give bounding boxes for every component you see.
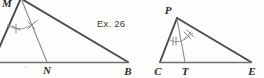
right-vertex-label-E: E [247,65,255,77]
left-vertex-label-B: B [123,65,131,77]
left-triangle-cevian [22,1,47,62]
geometry-figure-panel: M N B Ex. 26 [0,0,264,78]
left-triangle-left-side [0,0,21,64]
exercise-reference-label: Ex. 26 [97,18,125,29]
left-apex-label: M [1,0,13,9]
right-apex-label-P: P [165,4,172,16]
left-triangle-hypotenuse [20,0,128,62]
right-triangle-group: P C T E [154,4,255,77]
left-triangle-group: M N B [0,0,132,77]
right-vertex-label-C: C [154,65,162,77]
figure-canvas: M N B Ex. 26 [0,0,264,78]
right-foot-label-T: T [182,65,190,77]
print-speck [25,66,26,67]
left-foot-label-N: N [42,64,52,76]
right-triangle-side-PC [160,18,177,62]
right-triangle-hypotenuse-PE [177,18,251,62]
